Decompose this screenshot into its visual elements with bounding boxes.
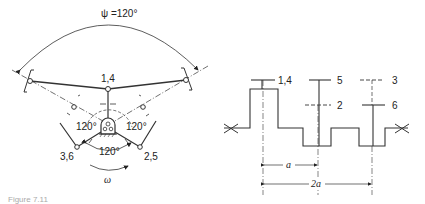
- right-axis-line: [108, 66, 208, 125]
- left-inner-node: [72, 105, 77, 110]
- throw-label-3: 3: [392, 75, 398, 86]
- angle-left-label: 120°: [76, 121, 97, 132]
- left-bottom-label: 3,6: [60, 151, 74, 162]
- crankshaft-figure: ψ =120° 1,4 120° 120° 120° 3,6 2,5 ω 1,4: [0, 0, 425, 204]
- right-bottom-node: [138, 145, 143, 150]
- psi-angle-label: ψ =120°: [101, 8, 137, 19]
- crank-profile: [224, 89, 408, 146]
- figure-caption: Figure 7.11: [8, 195, 48, 204]
- angle-right-label: 120°: [126, 121, 147, 132]
- right-inner-node: [141, 105, 146, 110]
- dim-2a-label: 2a: [311, 178, 321, 189]
- left-axis-line: [12, 70, 110, 125]
- omega-label: ω: [104, 174, 111, 185]
- left-bottom-node: [75, 145, 80, 150]
- right-pivot: [184, 78, 189, 83]
- left-rod: [30, 81, 108, 89]
- left-pivot: [28, 79, 33, 84]
- top-node-label: 1,4: [101, 73, 115, 84]
- throw-label-1-4: 1,4: [278, 75, 292, 86]
- right-bottom-label: 2,5: [144, 151, 158, 162]
- right-rod: [108, 80, 186, 89]
- throw-label-2: 2: [337, 100, 343, 111]
- dim-a-label: a: [286, 159, 291, 170]
- throw-label-6: 6: [392, 100, 398, 111]
- rotation-arrow: [90, 165, 128, 170]
- top-node: [106, 87, 111, 92]
- psi-angle-arc: [20, 25, 198, 70]
- angle-bottom-label: 120°: [99, 146, 120, 157]
- throw-label-5: 5: [337, 75, 343, 86]
